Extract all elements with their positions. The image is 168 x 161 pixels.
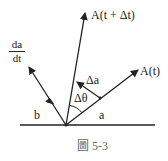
label-da-dt-denominator: dt	[9, 52, 25, 64]
delta-theta-arc	[70, 105, 83, 113]
vector-a-t-plus-dt	[66, 13, 85, 125]
label-da-dt: da dt	[9, 39, 25, 64]
origin-point	[65, 124, 68, 127]
label-a-t-plus-dt: A(t + Δt)	[91, 9, 135, 21]
label-a-t: A(t)	[140, 65, 160, 77]
label-a: a	[99, 109, 104, 121]
label-delta-theta: Δθ	[74, 92, 87, 104]
label-da-dt-numerator: da	[9, 39, 25, 52]
figure-caption: 圖 5-3	[77, 136, 108, 154]
label-delta-a: Δa	[86, 74, 99, 86]
delta-a-point	[99, 97, 102, 100]
label-b: b	[34, 109, 40, 121]
